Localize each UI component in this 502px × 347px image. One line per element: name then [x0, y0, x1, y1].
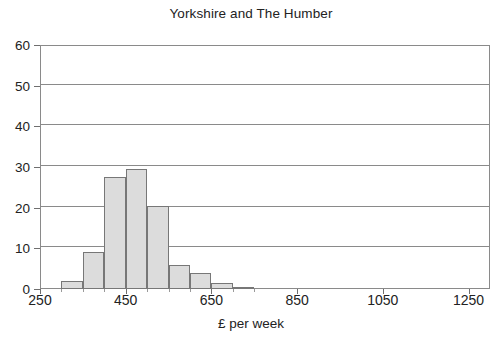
histogram-bar	[190, 273, 211, 289]
y-tick-mark	[34, 167, 40, 168]
y-tick-mark	[34, 126, 40, 127]
x-axis: 25045065085010501250	[0, 292, 502, 314]
x-tick-label: 850	[285, 292, 308, 308]
y-tick-mark	[34, 208, 40, 209]
chart-title: Yorkshire and The Humber	[0, 6, 502, 21]
x-tick-label: 250	[28, 292, 51, 308]
y-tick-mark	[34, 45, 40, 46]
y-tick-label: 30	[15, 160, 30, 175]
histogram-chart: Yorkshire and The Humber 0102030405060 2…	[0, 0, 502, 347]
y-axis: 0102030405060	[0, 45, 36, 289]
histogram-bar	[147, 206, 168, 289]
y-tick-label: 20	[15, 200, 30, 215]
y-tick-label: 40	[15, 119, 30, 134]
y-tick-mark	[34, 86, 40, 87]
y-tick-label: 60	[15, 38, 30, 53]
bars-layer	[40, 45, 490, 289]
y-tick-label: 50	[15, 78, 30, 93]
x-tick-label: 650	[200, 292, 223, 308]
histogram-bar	[211, 283, 232, 289]
histogram-bar	[61, 281, 82, 289]
histogram-bar	[169, 265, 190, 289]
x-tick-label: 1050	[367, 292, 398, 308]
x-tick-label: 1250	[453, 292, 484, 308]
histogram-bar	[233, 287, 254, 289]
histogram-bar	[104, 177, 125, 289]
histogram-bar	[83, 252, 104, 289]
x-axis-title: £ per week	[0, 316, 502, 331]
x-tick-label: 450	[114, 292, 137, 308]
histogram-bar	[126, 169, 147, 289]
y-tick-label: 10	[15, 241, 30, 256]
y-tick-mark	[34, 248, 40, 249]
